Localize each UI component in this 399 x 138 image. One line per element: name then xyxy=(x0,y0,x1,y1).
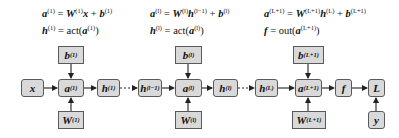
node-W1: W(1) xyxy=(58,111,84,129)
node-loss-L: L xyxy=(368,79,385,97)
node-f: f xyxy=(335,79,352,97)
node-label: y xyxy=(374,114,379,126)
node-a1: a(1) xyxy=(58,79,84,97)
node-h1: h(1) xyxy=(97,79,120,97)
node-label: f xyxy=(342,82,346,94)
node-label: h xyxy=(102,82,108,94)
node-label: L xyxy=(373,82,380,94)
node-label: b xyxy=(298,49,304,61)
node-hL: h(L) xyxy=(255,79,278,97)
node-al: a(l) xyxy=(175,79,202,97)
node-b1: b(1) xyxy=(58,46,84,64)
node-h-l-minus-1: h(l−1) xyxy=(138,79,162,97)
node-input-x: x xyxy=(21,79,44,97)
node-W-L-plus-1: W(L+1) xyxy=(292,111,326,129)
node-a-L-plus-1: a(L+1) xyxy=(295,79,322,97)
node-label: W xyxy=(181,114,191,126)
node-bl: b(l) xyxy=(175,46,202,64)
node-label: W xyxy=(296,114,306,126)
node-b-L-plus-1: b(L+1) xyxy=(293,46,324,64)
node-Wl: W(l) xyxy=(175,111,202,129)
node-hl: h(l) xyxy=(213,79,238,97)
node-target-y: y xyxy=(368,111,385,129)
node-label: x xyxy=(30,82,36,94)
node-label: a xyxy=(298,82,304,94)
node-label: W xyxy=(62,114,72,126)
